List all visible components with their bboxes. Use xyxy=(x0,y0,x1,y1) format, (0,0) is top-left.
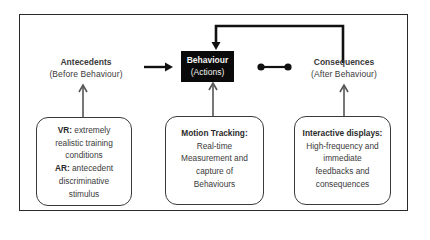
consequences-subtitle: (After Behaviour) xyxy=(296,68,392,80)
consequences-title: Consequences xyxy=(296,56,392,68)
motion-tracking-line-1: Real-time xyxy=(166,140,263,153)
ar-text-2: discriminative xyxy=(37,175,131,188)
interactive-displays-line-1: High-frequency and xyxy=(295,140,390,153)
motion-tracking-line-3: capture of xyxy=(166,165,263,178)
antecedents-node: Antecedents (Before Behaviour) xyxy=(38,56,134,80)
vr-ar-box: VR: extremely realistic training conditi… xyxy=(36,117,132,206)
behaviour-node: Behaviour (Actions) xyxy=(181,51,234,82)
ar-text-1: antecedent xyxy=(72,163,113,173)
consequences-node: Consequences (After Behaviour) xyxy=(296,56,392,80)
interactive-displays-label: Interactive displays: xyxy=(303,128,383,138)
behaviour-title: Behaviour xyxy=(181,54,234,66)
antecedents-subtitle: (Before Behaviour) xyxy=(38,68,134,80)
ar-label: AR: xyxy=(55,163,70,173)
motion-tracking-box: Motion Tracking: Real-time Measurement a… xyxy=(165,116,264,205)
motion-tracking-line-2: Measurement and xyxy=(166,152,263,165)
vr-text-2: realistic training xyxy=(37,137,131,150)
interactive-displays-box: Interactive displays: High-frequency and… xyxy=(294,116,391,205)
behaviour-subtitle: (Actions) xyxy=(181,66,234,78)
vr-text-1: extremely xyxy=(74,125,110,135)
interactive-displays-line-3: feedbacks and xyxy=(295,165,390,178)
interactive-displays-line-2: immediate xyxy=(295,152,390,165)
ar-text-3: stimulus xyxy=(37,188,131,201)
motion-tracking-label: Motion Tracking: xyxy=(181,128,247,138)
antecedents-title: Antecedents xyxy=(38,56,134,68)
motion-tracking-line-4: Behaviours xyxy=(166,178,263,191)
vr-label: VR: xyxy=(58,125,72,135)
interactive-displays-line-4: consequences xyxy=(295,178,390,191)
vr-text-3: conditions xyxy=(37,149,131,162)
